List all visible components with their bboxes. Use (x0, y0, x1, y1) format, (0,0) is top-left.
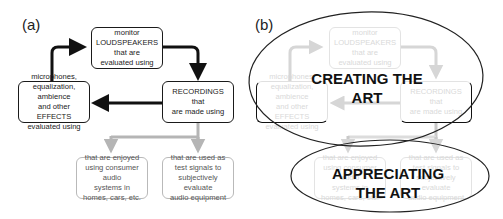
appreciating-art-label: APPRECIATING THE ART (330, 164, 446, 202)
creating-art-label: CREATING THE ART (300, 69, 434, 107)
